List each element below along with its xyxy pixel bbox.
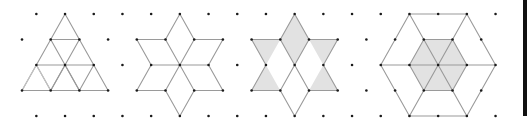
subdivided-triangle-edge	[65, 65, 79, 91]
lattice-dot	[437, 64, 440, 67]
lattice-dot	[35, 115, 38, 118]
lattice-dot	[78, 89, 81, 92]
lattice-dot	[150, 64, 153, 67]
shaded-star-edge	[280, 91, 294, 117]
subdivided-triangle-edge	[51, 65, 65, 91]
lattice-dot	[250, 38, 253, 41]
lattice-dot	[379, 13, 382, 16]
lattice-dot	[107, 38, 110, 41]
shaded-star-shaded-region	[309, 40, 338, 66]
six-rhombus-star-edge	[166, 14, 180, 40]
lattice-dot	[293, 13, 296, 16]
lattice-dot	[279, 89, 282, 92]
lattice-dot	[308, 89, 311, 92]
six-rhombus-star-edge	[137, 40, 151, 66]
six-rhombus-star-edge	[180, 14, 194, 40]
lattice-dot	[21, 89, 24, 92]
lattice-dot	[408, 115, 411, 118]
six-rhombus-star-edge	[180, 91, 194, 117]
lattice-dot	[437, 13, 440, 16]
lattice-dot	[164, 38, 167, 41]
lattice-dot	[92, 115, 95, 118]
lattice-dot	[64, 64, 67, 67]
lattice-dot	[494, 13, 497, 16]
lattice-dot	[265, 64, 268, 67]
lattice-dot	[394, 89, 397, 92]
six-rhombus-star-edge	[166, 91, 180, 117]
lattice-dot	[394, 38, 397, 41]
six-rhombus-star-edge	[209, 65, 223, 91]
lattice-dot	[293, 115, 296, 118]
lattice-dot	[365, 38, 368, 41]
lattice-dot	[179, 115, 182, 118]
lattice-dot	[322, 64, 325, 67]
lattice-dot	[265, 13, 268, 16]
lattice-dot	[78, 38, 81, 41]
lattice-dot	[136, 89, 139, 92]
lattice-dot	[193, 89, 196, 92]
lattice-dot	[193, 38, 196, 41]
lattice-dot	[480, 38, 483, 41]
lattice-dot	[466, 115, 469, 118]
right-border-bar	[523, 0, 527, 116]
lattice-dot	[408, 13, 411, 16]
shaded-regions	[252, 14, 467, 91]
subdivided-triangle-edge	[79, 65, 93, 91]
lattice-dot	[250, 89, 253, 92]
subdivided-triangle-edge	[22, 65, 36, 91]
lattice-dot	[379, 64, 382, 67]
lattice-dot	[92, 13, 95, 16]
isometric-dot-grid-diagram	[0, 0, 528, 129]
lattice-dot	[322, 13, 325, 16]
lattice-dot	[121, 64, 124, 67]
lattice-dot	[164, 89, 167, 92]
lattice-dot	[35, 13, 38, 16]
lattice-dot	[121, 115, 124, 118]
lattice-dot	[379, 115, 382, 118]
shaded-star-shaded-region	[252, 65, 281, 91]
lattice-dot	[423, 89, 426, 92]
lattice-dot	[150, 115, 153, 118]
lattice-dot	[236, 64, 239, 67]
lattice-dot	[121, 13, 124, 16]
lattice-dot	[64, 115, 67, 118]
lattice-dot	[308, 38, 311, 41]
six-rhombus-star-edge	[137, 65, 151, 91]
shaded-star-shaded-region	[309, 65, 338, 91]
lattice-dot	[351, 13, 354, 16]
lattice-dot	[92, 64, 95, 67]
lattice-dot	[222, 89, 225, 92]
lattice-dot	[107, 89, 110, 92]
lattice-dot	[408, 64, 411, 67]
shaded-star-shaded-region	[280, 14, 309, 65]
lattice-dot	[351, 115, 354, 118]
lattice-dot	[236, 115, 239, 118]
lattice-dot	[351, 64, 354, 67]
lattice-dot	[494, 115, 497, 118]
lattice-dot	[437, 115, 440, 118]
lattice-dot	[466, 13, 469, 16]
six-rhombus-star-edge	[209, 40, 223, 66]
lattice-dot	[207, 115, 210, 118]
lattice-dot	[322, 115, 325, 118]
subdivided-triangle-edge	[36, 65, 50, 91]
shaded-star-shaded-region	[252, 40, 281, 66]
lattice-dot	[293, 64, 296, 67]
lattice-dot	[336, 38, 339, 41]
lattice-dot	[451, 89, 454, 92]
lattice-dot	[64, 13, 67, 16]
lattice-dot	[150, 13, 153, 16]
lattice-dot	[480, 89, 483, 92]
lattice-dot	[49, 89, 52, 92]
lattice-dot	[179, 13, 182, 16]
lattice-dot	[207, 13, 210, 16]
lattice-dot	[207, 64, 210, 67]
lattice-dot	[136, 38, 139, 41]
lattice-dot	[365, 89, 368, 92]
lattice-dot	[236, 13, 239, 16]
lattice-dot	[265, 115, 268, 118]
lattice-dot	[222, 38, 225, 41]
lattice-dot	[336, 89, 339, 92]
lattice-dot	[451, 38, 454, 41]
lattice-dot	[494, 64, 497, 67]
